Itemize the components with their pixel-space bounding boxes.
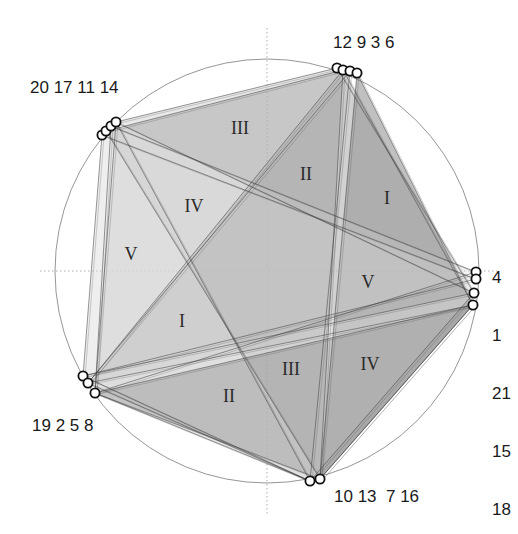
point-marker-icon — [83, 378, 92, 387]
region-label-v: V — [125, 244, 138, 264]
region-label-ii: II — [223, 386, 235, 406]
region-label-ii: II — [300, 164, 312, 184]
cluster-label-right-line: 15 — [492, 440, 511, 464]
region-label-iv: IV — [185, 196, 204, 216]
region-label-iv: IV — [361, 354, 380, 374]
point-marker-icon — [468, 300, 477, 309]
point-marker-icon — [352, 68, 361, 77]
cluster-label-bottom: 10 13 7 16 — [334, 488, 419, 505]
point-marker-icon — [471, 274, 480, 283]
point-marker-icon — [469, 288, 478, 297]
cluster-label-lower-left: 19 2 5 8 — [32, 417, 93, 434]
cluster-label-upper-left: 20 17 11 14 — [30, 79, 119, 96]
region-label-iii: III — [231, 118, 249, 138]
cluster-label-top: 12 9 3 6 — [333, 34, 394, 51]
cluster-label-right-line: 21 — [492, 382, 511, 406]
cluster-label-right-line: 4 — [492, 266, 511, 290]
cluster-label-right-line: 1 — [492, 324, 511, 348]
region-label-iii: III — [282, 359, 300, 379]
region-label-v: V — [362, 272, 375, 292]
point-marker-icon — [111, 117, 120, 126]
cluster-label-right-line: 18 — [492, 498, 511, 522]
region-label-i: I — [179, 311, 185, 331]
cluster-label-right: 4 1 21 15 18 — [492, 232, 511, 534]
point-marker-icon — [305, 476, 314, 485]
point-marker-icon — [315, 474, 324, 483]
shaded-triangles — [83, 68, 476, 481]
point-marker-icon — [90, 388, 99, 397]
region-label-i: I — [384, 188, 390, 208]
